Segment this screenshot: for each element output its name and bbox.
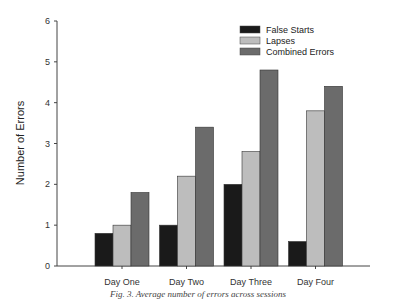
x-tick-label: Day One [104,277,140,287]
legend-item: False Starts [240,25,315,35]
legend-item: Lapses [240,36,296,46]
bar [178,176,196,266]
legend-label: False Starts [266,25,315,35]
legend-item: Combined Errors [240,47,335,57]
legend-label: Lapses [266,36,296,46]
x-axis: Day OneDay TwoDay ThreeDay Four [57,266,370,287]
x-tick-label: Day Four [297,277,334,287]
y-tick-label: 3 [45,139,50,149]
bar [113,225,131,266]
y-tick-label: 1 [45,220,50,230]
bar [224,184,242,266]
y-axis: 0123456 [45,16,57,271]
x-tick-label: Day Two [169,277,204,287]
legend-swatch [240,26,260,33]
bar-group [224,70,278,266]
y-tick-label: 2 [45,179,50,189]
bar [131,193,149,267]
x-tick-label: Day Three [230,277,272,287]
bar [196,127,214,266]
bar [242,152,260,266]
bar-chart: 0123456 Day OneDay TwoDay ThreeDay Four … [0,0,396,300]
y-tick-label: 6 [45,16,50,26]
y-axis-title: Number of Errors [14,100,26,185]
bar [160,225,178,266]
figure-caption: Fig. 3. Average number of errors across … [0,289,396,299]
bar [260,70,278,266]
bars [95,70,343,266]
bar-group [95,193,149,267]
legend-label: Combined Errors [266,47,335,57]
legend-swatch [240,48,260,55]
legend-swatch [240,37,260,44]
bar [95,233,113,266]
y-tick-label: 0 [45,261,50,271]
y-tick-label: 5 [45,57,50,67]
y-tick-label: 4 [45,98,50,108]
bar [289,242,307,267]
bar-group [289,86,343,266]
bar-group [160,127,214,266]
legend: False StartsLapsesCombined Errors [240,25,335,57]
bar [325,86,343,266]
bar [307,111,325,266]
